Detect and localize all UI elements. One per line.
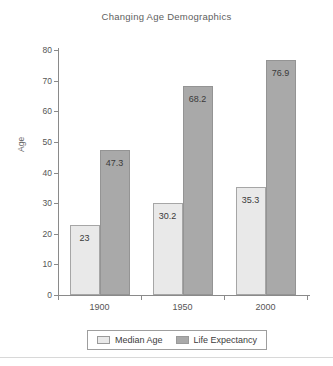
bar-chart: Changing Age Demographics Age 2347.330.2… — [0, 0, 333, 366]
y-tick-mark — [54, 173, 58, 174]
bar-value-label: 23 — [71, 233, 99, 243]
legend-label: Median Age — [115, 335, 163, 345]
bar-1950-life-expectancy: 68.2 — [183, 86, 213, 295]
x-tick-label: 1950 — [172, 302, 192, 312]
x-axis-line — [58, 295, 310, 296]
legend-swatch-icon — [97, 336, 110, 344]
y-tick-mark — [54, 50, 58, 51]
bar-2000-life-expectancy: 76.9 — [266, 60, 296, 296]
y-tick-mark — [54, 142, 58, 143]
bar-value-label: 35.3 — [237, 195, 265, 205]
x-tick-mark — [141, 295, 142, 300]
chart-title: Changing Age Demographics — [0, 11, 333, 22]
bar-1950-median-age: 30.2 — [153, 203, 183, 295]
bar-value-label: 47.3 — [101, 158, 129, 168]
x-tick-mark — [307, 295, 308, 300]
y-tick-mark — [54, 111, 58, 112]
x-tick-label: 2000 — [255, 302, 275, 312]
bar-1900-median-age: 23 — [70, 225, 100, 295]
bottom-divider — [0, 357, 333, 358]
bar-value-label: 68.2 — [184, 94, 212, 104]
chart-legend: Median AgeLife Expectancy — [87, 330, 267, 350]
y-tick-mark — [54, 264, 58, 265]
x-tick-mark — [58, 295, 59, 300]
x-tick-mark — [224, 295, 225, 300]
y-axis-title: Age — [16, 137, 26, 152]
legend-swatch-icon — [176, 336, 189, 344]
bar-2000-median-age: 35.3 — [236, 187, 266, 295]
y-tick-mark — [54, 234, 58, 235]
y-tick-mark — [54, 203, 58, 204]
legend-entry: Median Age — [97, 335, 163, 345]
bar-1900-life-expectancy: 47.3 — [100, 150, 130, 295]
legend-entry: Life Expectancy — [176, 335, 258, 345]
y-tick-mark — [54, 81, 58, 82]
bar-value-label: 30.2 — [154, 211, 182, 221]
plot-area: 2347.330.268.235.376.9 — [58, 50, 307, 295]
x-tick-label: 1900 — [89, 302, 109, 312]
legend-label: Life Expectancy — [194, 335, 258, 345]
bar-value-label: 76.9 — [267, 68, 295, 78]
